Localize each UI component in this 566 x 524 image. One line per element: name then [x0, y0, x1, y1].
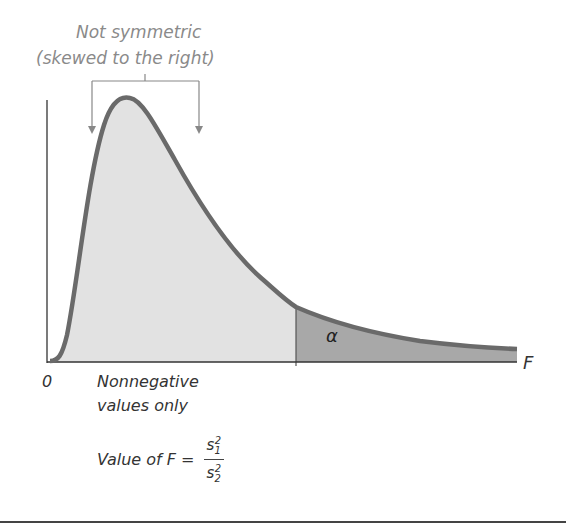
body-area — [50, 98, 296, 362]
f-formula: Value of F = s12 s22 — [97, 432, 224, 487]
variance-ratio-fraction: s12 s22 — [204, 432, 225, 487]
arrow-left-icon — [88, 126, 96, 134]
skew-annotation-line2: (skewed to the right) — [36, 48, 215, 68]
formula-prefix: Value of F = — [97, 450, 194, 469]
nonnegative-note-line2: values only — [97, 396, 188, 415]
denominator-subscript: 2 — [214, 473, 220, 484]
nonnegative-note-line1: Nonnegative — [97, 372, 199, 391]
alpha-label: α — [326, 325, 338, 346]
arrow-right-icon — [195, 126, 203, 134]
numerator-superscript: 2 — [215, 435, 221, 446]
x-axis-label: F — [523, 352, 533, 373]
denominator-superscript: 2 — [215, 463, 221, 474]
f-distribution-diagram — [0, 0, 566, 524]
origin-label: 0 — [42, 372, 52, 391]
skew-annotation-line1: Not symmetric — [76, 22, 201, 42]
numerator-subscript: 1 — [214, 445, 220, 456]
